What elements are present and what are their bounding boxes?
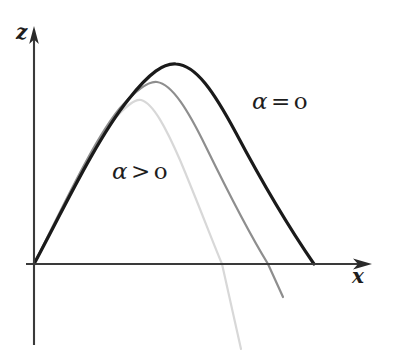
x-axis-label: x — [352, 264, 364, 288]
alpha-symbol-positive: α — [112, 158, 128, 184]
trajectory-curve-alpha-strong — [34, 100, 241, 349]
z-axis-label: z — [16, 20, 27, 44]
figure-canvas — [0, 0, 395, 351]
alpha-zero-value: o — [294, 88, 308, 114]
projectile-trajectory-figure: z x α=o α>o — [0, 0, 395, 351]
alpha-symbol-zero: α — [252, 88, 268, 114]
curve-label-alpha-greater-zero: α>o — [112, 158, 168, 184]
alpha-positive-value: o — [154, 158, 168, 184]
greater-than-operator: > — [128, 158, 154, 184]
curve-label-alpha-equals-zero: α=o — [252, 88, 308, 114]
equals-operator: = — [268, 88, 294, 114]
